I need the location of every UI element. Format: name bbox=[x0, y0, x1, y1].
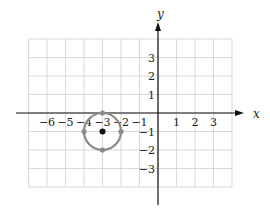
y-tick-label: −3 bbox=[139, 163, 155, 176]
y-axis-label: y bbox=[156, 7, 164, 21]
axes bbox=[16, 22, 244, 205]
x-tick-label: 3 bbox=[210, 116, 217, 129]
x-tick-label: 1 bbox=[173, 116, 180, 129]
x-tick-label: −6 bbox=[39, 116, 55, 129]
y-tick-label: −2 bbox=[139, 144, 155, 157]
coordinate-plane: −6−5−4−3−2−1123321−1−2−3 x y bbox=[0, 0, 270, 215]
circle-point-right bbox=[118, 129, 123, 134]
x-axis-label: x bbox=[253, 107, 260, 121]
circle-point-bottom bbox=[100, 147, 105, 152]
circle-center-point bbox=[100, 129, 106, 135]
circle-point-left bbox=[81, 129, 86, 134]
y-tick-label: 3 bbox=[148, 52, 155, 65]
y-tick-label: 2 bbox=[148, 70, 155, 83]
x-tick-label: 2 bbox=[192, 116, 199, 129]
x-axis-arrow-icon bbox=[235, 110, 244, 116]
y-tick-label: 1 bbox=[148, 89, 155, 102]
y-axis-arrow-icon bbox=[155, 22, 161, 31]
x-tick-label: −5 bbox=[57, 116, 73, 129]
x-tick-label: −3 bbox=[94, 116, 110, 129]
circle-point-top bbox=[100, 110, 105, 115]
y-tick-label: −1 bbox=[139, 126, 155, 139]
